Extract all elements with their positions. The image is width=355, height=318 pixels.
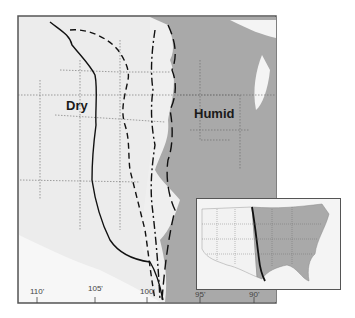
inset-map-us (196, 198, 341, 290)
humid-label: Humid (194, 106, 234, 121)
inset-map-svg (197, 199, 339, 288)
longitude-label-105: 105' (88, 284, 103, 293)
longitude-label-95: 95' (195, 290, 205, 299)
map: Dry Humid 110' 105' 100' 95' 90' (0, 0, 355, 318)
longitude-label-90: 90' (249, 290, 259, 299)
inset-east (252, 204, 329, 281)
longitude-label-100: 100' (140, 287, 155, 296)
longitude-label-110: 110' (30, 287, 44, 296)
dry-label: Dry (66, 98, 88, 113)
inset-west (202, 207, 257, 277)
